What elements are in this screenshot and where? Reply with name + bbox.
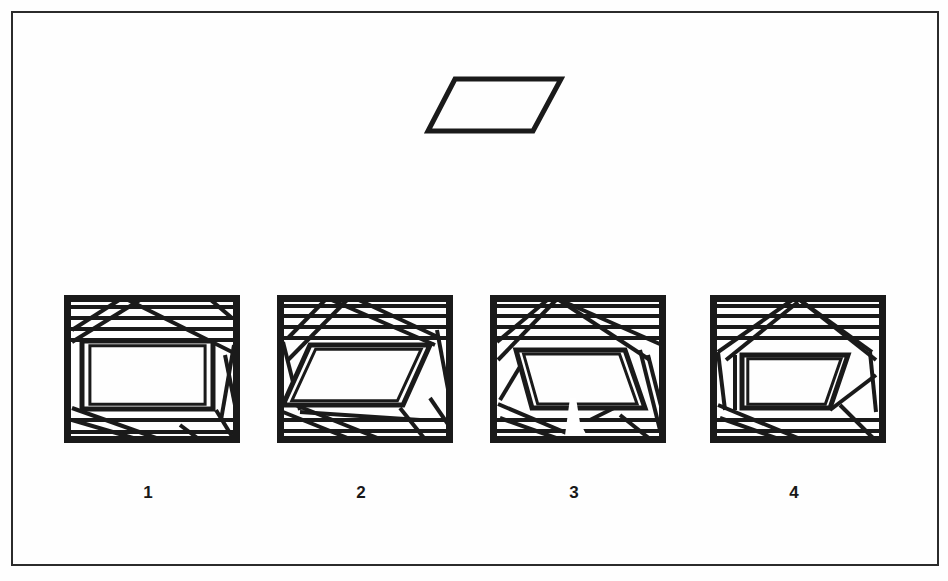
figure-1[interactable]: [64, 295, 240, 443]
page-background: [0, 0, 948, 581]
test-page: 1 2 3 4: [0, 0, 948, 581]
figure-canvas: [0, 0, 948, 581]
